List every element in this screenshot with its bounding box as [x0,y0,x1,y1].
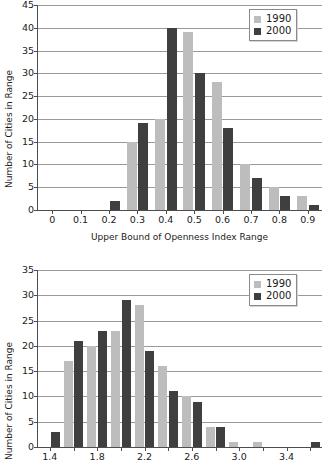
bar-2000 [138,123,148,210]
bar-2000 [122,300,131,447]
y-axis-tick-label: 0 [28,205,34,215]
legend-label-1990: 1990 [266,14,291,24]
x-axis-tick-mark [74,447,75,451]
y-axis-title: Number of Cities in Range [4,290,14,460]
x-axis-tick-label: 0.7 [243,215,258,225]
bar-2000 [280,196,290,210]
bar-2000 [145,351,154,447]
y-axis-tick-mark [34,187,38,188]
gridline [38,164,322,165]
y-axis-tick-mark [34,270,38,271]
y-axis-tick-label: 35 [22,46,34,56]
chart-second-index-1990-2000: Number of Cities in Range 05101520253035… [0,250,328,473]
bar-1990 [135,305,144,447]
x-axis-tick-label: 1.4 [42,452,57,462]
x-axis-title: Upper Bound of Openness Index Range [37,232,322,242]
gridline [38,270,322,271]
bar-1990 [206,427,215,447]
x-axis-tick-label: 2.6 [184,452,199,462]
x-axis-tick-label: 0 [49,215,55,225]
bar-2000 [311,442,320,447]
y-axis-tick-label: 25 [22,316,34,326]
bar-1990 [253,442,262,447]
bar-1990 [269,187,279,210]
bar-2000 [223,128,233,210]
y-axis-tick-label: 35 [22,265,34,275]
x-axis-tick-label: 0.3 [130,215,145,225]
x-axis-tick-label: 0.9 [300,215,315,225]
y-axis-tick-label: 30 [22,291,34,301]
x-axis-tick-label: 3.0 [232,452,247,462]
y-axis-tick-mark [34,142,38,143]
bar-1990 [240,164,250,210]
y-axis-tick-mark [34,28,38,29]
legend-label-2000: 2000 [266,26,291,36]
bar-1990 [64,361,73,447]
legend-entry-1990: 1990 [254,278,291,290]
x-axis-tick-label: 1.8 [90,452,105,462]
gridline [38,5,322,6]
y-axis-tick-mark [34,5,38,6]
legend-label-2000: 2000 [266,291,291,301]
x-axis-tick-label: 0.1 [73,215,88,225]
legend: 1990 2000 [249,9,297,41]
legend-label-1990: 1990 [266,279,291,289]
y-axis-title: Number of Cities in Range [4,18,14,188]
x-axis-tick-label: 3.4 [279,452,294,462]
legend-entry-2000: 2000 [254,25,291,37]
bar-2000 [216,427,225,447]
y-axis-tick-label: 45 [22,0,34,10]
x-axis-tick-label: 2.2 [137,452,152,462]
y-axis-tick-mark [34,51,38,52]
gridline [38,119,322,120]
y-axis-tick-label: 20 [22,341,34,351]
y-axis-tick-mark [34,210,38,211]
bar-1990 [158,366,167,447]
y-axis-tick-label: 20 [22,114,34,124]
y-axis-tick-label: 15 [22,366,34,376]
y-axis-tick-mark [34,396,38,397]
legend-swatch-2000-icon [254,293,261,300]
legend: 1990 2000 [249,274,297,306]
y-axis-tick-label: 0 [28,442,34,452]
bar-1990 [87,346,96,447]
x-axis-tick-label: 0.8 [272,215,287,225]
bar-1990 [212,82,222,210]
legend-entry-2000: 2000 [254,290,291,302]
bar-1990 [183,32,193,210]
y-axis-tick-mark [34,422,38,423]
bar-2000 [252,178,262,210]
y-axis-tick-label: 30 [22,69,34,79]
y-axis-tick-mark [34,371,38,372]
bar-2000 [193,402,202,448]
bar-2000 [195,73,205,210]
bar-2000 [98,331,107,447]
bar-2000 [74,341,83,447]
bar-2000 [51,432,60,447]
x-axis-tick-mark [310,447,311,451]
y-axis-tick-mark [34,164,38,165]
y-axis-tick-label: 5 [28,182,34,192]
bar-2000 [110,201,120,210]
x-axis-tick-mark [263,447,264,451]
y-axis-tick-label: 40 [22,23,34,33]
bar-1990 [111,331,120,447]
y-axis-tick-label: 10 [22,160,34,170]
bar-2000 [309,205,319,210]
legend-swatch-1990-icon [254,16,261,23]
bar-2000 [169,391,178,447]
y-axis-tick-mark [34,73,38,74]
gridline [38,187,322,188]
legend-swatch-2000-icon [254,28,261,35]
x-axis-tick-mark [168,447,169,451]
x-axis-tick-label: 0.4 [158,215,173,225]
gridline [38,142,322,143]
gridline [38,51,322,52]
y-axis-tick-label: 10 [22,392,34,402]
bar-2000 [167,28,177,210]
figure-two-histograms: Number of Cities in Range 05101520253035… [0,0,328,473]
bar-1990 [155,119,165,210]
y-axis-tick-mark [34,295,38,296]
bar-1990 [229,442,238,447]
y-axis-tick-mark [34,321,38,322]
